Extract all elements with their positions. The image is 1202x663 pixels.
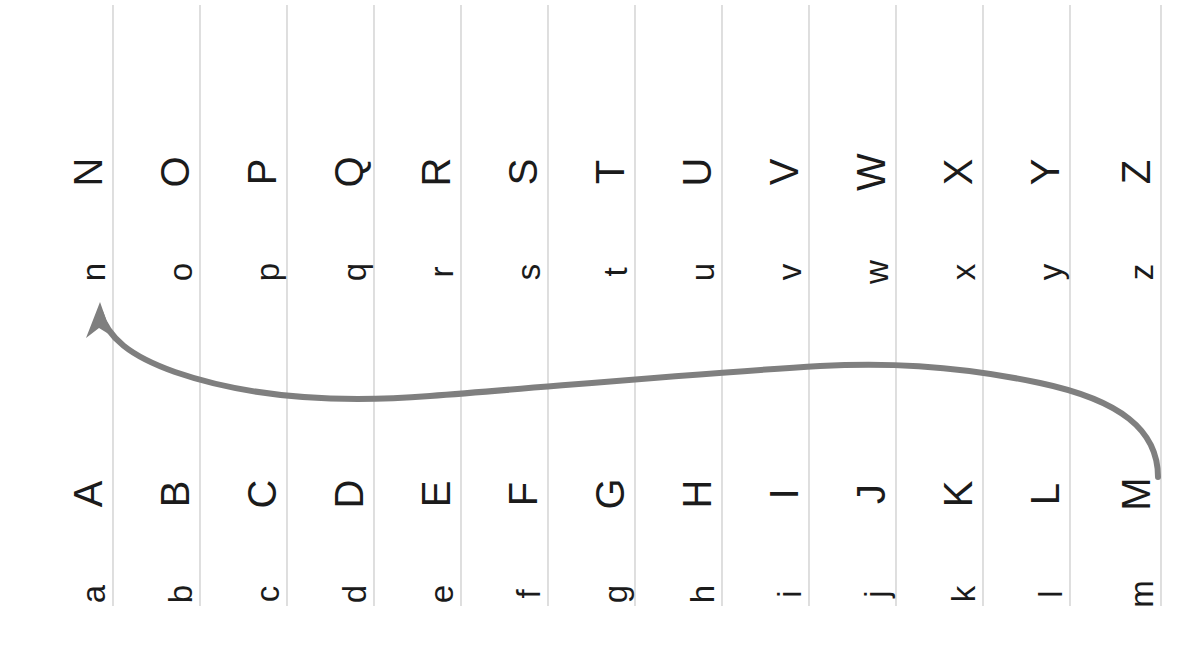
figure-canvas: NnAaOoBbPpCcQqDdRrEeSsFfTtGgUuHhVvIiWwJj… — [0, 0, 1202, 663]
arrow-head-icon — [86, 302, 112, 338]
curved-arrow-layer — [0, 0, 1202, 663]
curve-path — [100, 312, 1158, 477]
